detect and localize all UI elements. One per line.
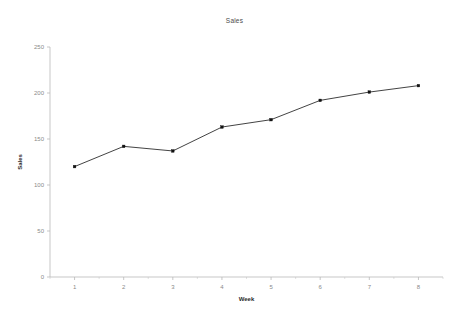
sales-line-series [75, 86, 419, 167]
chart-figure: Sales 050100150200250 12345678 Week Sale… [0, 0, 469, 316]
x-axis-title: Week [239, 296, 255, 302]
data-point [122, 145, 125, 148]
data-point [172, 150, 175, 153]
data-point [270, 118, 273, 121]
x-tick-label: 7 [368, 284, 372, 290]
y-tick-label: 200 [34, 90, 45, 96]
y-tick-label: 250 [34, 44, 45, 50]
x-tick-label: 8 [417, 284, 421, 290]
data-point [417, 84, 420, 87]
y-axis-ticks: 050100150200250 [34, 44, 50, 280]
x-tick-label: 1 [73, 284, 77, 290]
data-point [368, 91, 371, 94]
x-tick-label: 3 [171, 284, 175, 290]
y-tick-label: 50 [37, 228, 44, 234]
y-axis-title: Sales [17, 154, 23, 170]
data-point [319, 99, 322, 102]
data-point [221, 126, 224, 129]
x-tick-label: 2 [122, 284, 126, 290]
y-tick-label: 0 [41, 274, 45, 280]
data-point [73, 165, 76, 168]
data-point-markers [73, 84, 419, 168]
x-tick-label: 6 [319, 284, 323, 290]
x-tick-label: 5 [269, 284, 273, 290]
y-tick-label: 100 [34, 182, 45, 188]
plot-area: 050100150200250 12345678 Week Sales [0, 0, 469, 316]
x-tick-label: 4 [220, 284, 224, 290]
y-tick-label: 150 [34, 136, 45, 142]
x-axis-ticks: 12345678 [73, 277, 421, 290]
